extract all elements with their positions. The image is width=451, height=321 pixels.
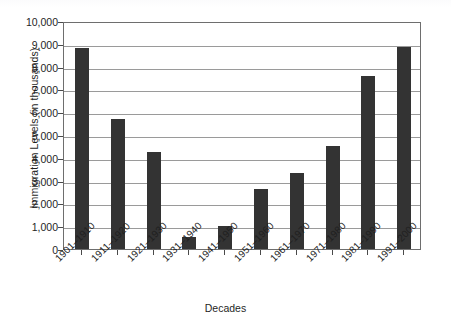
x-axis-title: Decades bbox=[0, 302, 451, 314]
immigration-bar-chart: Immigration Levels (in thousands) 10,000… bbox=[0, 0, 451, 321]
x-axis-tick-labels: 1901–19101911–19201921–19301931–19401941… bbox=[0, 0, 451, 321]
